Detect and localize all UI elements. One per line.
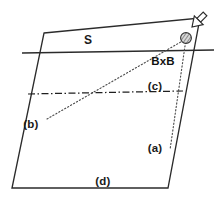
label-surface-s: S [84, 33, 92, 47]
label-region-d: (d) [95, 175, 110, 187]
label-field-bxb: BxB [151, 55, 174, 67]
hatched-sphere-particle [181, 33, 192, 44]
background-plate [0, 0, 219, 198]
figure-container: S BxB (a) (b) (c) (d) [0, 0, 219, 198]
label-region-b: (b) [23, 118, 38, 130]
label-region-c: (c) [148, 80, 163, 92]
label-region-a: (a) [148, 142, 163, 154]
line-diagram-canvas: S BxB (a) (b) (c) (d) [0, 0, 219, 198]
